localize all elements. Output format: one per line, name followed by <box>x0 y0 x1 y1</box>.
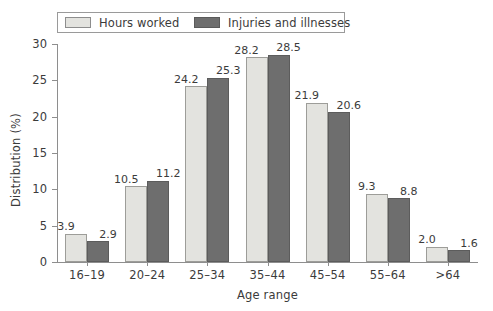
x-tick-mark <box>448 262 449 266</box>
y-tick-label: 5 <box>0 219 47 233</box>
bar-hours-worked <box>366 194 388 262</box>
bar-value-label: 20.6 <box>329 99 369 112</box>
x-tick-mark <box>87 262 88 266</box>
bar-injuries-and-illnesses <box>147 181 169 262</box>
y-tick-label: 0 <box>0 255 47 269</box>
legend-label-hours-worked: Hours worked <box>99 16 179 30</box>
x-tick-mark <box>147 262 148 266</box>
y-tick-label: 30 <box>0 37 47 51</box>
bar-hours-worked <box>426 247 448 262</box>
chart-legend: Hours worked Injuries and illnesses <box>57 12 345 33</box>
x-tick-label: 55–64 <box>358 268 418 282</box>
x-tick-mark <box>328 262 329 266</box>
y-tick-mark <box>52 262 57 263</box>
bar-value-label: 11.2 <box>148 167 188 180</box>
x-tick-label: 45–54 <box>298 268 358 282</box>
light-grey-swatch-icon <box>65 17 91 28</box>
x-tick-label: 16–19 <box>57 268 117 282</box>
x-tick-label: 35–44 <box>238 268 298 282</box>
y-tick-mark <box>52 153 57 154</box>
x-tick-mark <box>207 262 208 266</box>
bar-value-label: 10.5 <box>106 173 146 186</box>
bar-value-label: 1.6 <box>449 237 489 250</box>
bar-value-label: 28.2 <box>227 44 267 57</box>
bar-value-label: 21.9 <box>287 89 327 102</box>
bar-hours-worked <box>65 234 87 262</box>
legend-entry-injuries-and-illnesses: Injuries and illnesses <box>194 13 350 32</box>
y-tick-mark <box>52 80 57 81</box>
y-tick-mark <box>52 189 57 190</box>
bar-chart-figure: Hours worked Injuries and illnesses Dist… <box>0 0 493 311</box>
x-axis-title: Age range <box>57 288 478 302</box>
x-tick-label: >64 <box>418 268 478 282</box>
x-tick-mark <box>388 262 389 266</box>
y-tick-label: 15 <box>0 146 47 160</box>
legend-label-injuries-and-illnesses: Injuries and illnesses <box>228 16 350 30</box>
y-tick-label: 25 <box>0 73 47 87</box>
bar-value-label: 24.2 <box>166 73 206 86</box>
bar-hours-worked <box>185 86 207 262</box>
y-tick-mark <box>52 117 57 118</box>
bar-injuries-and-illnesses <box>388 198 410 262</box>
legend-entry-hours-worked: Hours worked <box>65 13 179 32</box>
bar-value-label: 8.8 <box>389 185 429 198</box>
x-tick-label: 25–34 <box>177 268 237 282</box>
dark-grey-swatch-icon <box>194 17 220 28</box>
x-tick-label: 20–24 <box>117 268 177 282</box>
bar-value-label: 9.3 <box>347 180 387 193</box>
bar-injuries-and-illnesses <box>268 55 290 262</box>
bar-hours-worked <box>125 186 147 262</box>
bar-value-label: 25.3 <box>208 64 248 77</box>
bar-value-label: 2.9 <box>88 228 128 241</box>
x-tick-mark <box>268 262 269 266</box>
bar-injuries-and-illnesses <box>207 78 229 262</box>
y-tick-label: 10 <box>0 182 47 196</box>
bar-value-label: 3.9 <box>46 220 86 233</box>
y-tick-label: 20 <box>0 110 47 124</box>
bar-injuries-and-illnesses <box>87 241 109 262</box>
bar-value-label: 2.0 <box>407 233 447 246</box>
bar-injuries-and-illnesses <box>448 250 470 262</box>
bar-hours-worked <box>246 57 268 262</box>
bar-hours-worked <box>306 103 328 262</box>
y-tick-mark <box>52 44 57 45</box>
bar-value-label: 28.5 <box>269 41 309 54</box>
